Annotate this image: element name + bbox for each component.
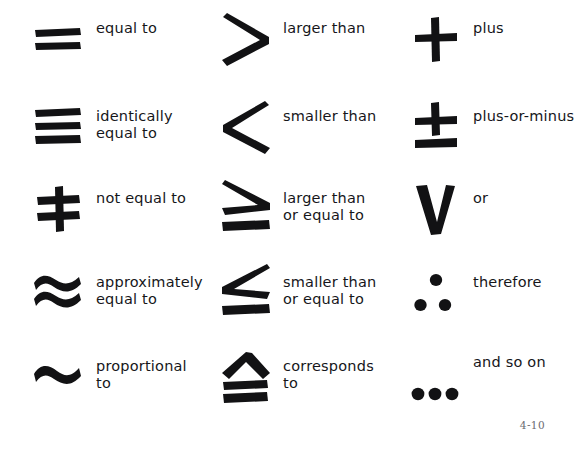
symbol-entry-proportional-to: proportional to	[0, 338, 195, 420]
symbol-entry-greater-than-or-equal: larger than or equal to	[195, 170, 391, 254]
label-line-2: equal to	[96, 291, 203, 308]
label-line-2: or equal to	[283, 291, 376, 308]
page-number: 4-10	[520, 419, 545, 431]
plus-symbol	[405, 14, 467, 66]
label-line-1: therefore	[473, 274, 542, 290]
label-line-1: not equal to	[96, 190, 186, 206]
ellipsis-symbol	[405, 352, 467, 412]
symbol-entry-greater-than: larger than	[195, 0, 391, 88]
greater-than-or-equal-symbol	[213, 184, 279, 236]
label-line-2: to	[283, 375, 374, 392]
symbol-entry-ellipsis: and so on	[391, 338, 577, 420]
label-line-1: proportional	[96, 358, 187, 375]
label-line-1: smaller than	[283, 274, 376, 291]
symbol-label: plus	[473, 20, 504, 37]
label-line-1: smaller than	[283, 108, 376, 124]
symbol-label: or	[473, 190, 488, 207]
not-equal-symbol	[22, 184, 94, 236]
symbol-grid: equal to larger than plus	[0, 0, 577, 420]
label-line-2: equal to	[96, 125, 173, 142]
label-line-1: corresponds	[283, 358, 374, 375]
symbol-entry-less-than-or-equal: smaller than or equal to	[195, 254, 391, 338]
logical-or-symbol	[405, 184, 467, 236]
less-than-or-equal-symbol	[213, 268, 279, 320]
label-line-1: plus-or-minus	[473, 108, 574, 124]
symbol-entry-less-than: smaller than	[195, 88, 391, 170]
symbol-entry-identical-to: identically equal to	[0, 88, 195, 170]
greater-than-symbol	[213, 14, 279, 66]
symbol-label: equal to	[96, 20, 157, 37]
approximately-equal-symbol	[22, 268, 94, 320]
label-line-1: equal to	[96, 20, 157, 36]
symbol-label: larger than	[283, 20, 365, 37]
identical-to-symbol	[22, 102, 94, 154]
symbol-label: smaller than	[283, 108, 376, 125]
symbol-entry-therefore: therefore	[391, 254, 577, 338]
symbol-entry-approximately-equal: approximately equal to	[0, 254, 195, 338]
proportional-to-symbol	[22, 352, 94, 404]
label-line-1: approximately	[96, 274, 203, 291]
symbol-label: not equal to	[96, 190, 186, 207]
label-line-1: identically	[96, 108, 173, 125]
symbol-label: proportional to	[96, 358, 187, 392]
symbol-entry-plus-or-minus: plus-or-minus	[391, 88, 577, 170]
label-line-2: or equal to	[283, 207, 365, 224]
less-than-symbol	[213, 102, 279, 154]
label-line-2: to	[96, 375, 187, 392]
symbol-entry-plus: plus	[391, 0, 577, 88]
corresponds-to-symbol	[213, 352, 279, 404]
symbol-chart-page: equal to larger than plus	[0, 0, 577, 467]
symbol-label: approximately equal to	[96, 274, 203, 308]
symbol-label: smaller than or equal to	[283, 274, 376, 308]
label-line-1: plus	[473, 20, 504, 36]
symbol-label: identically equal to	[96, 108, 173, 142]
symbol-entry-equals: equal to	[0, 0, 195, 88]
symbol-entry-not-equal: not equal to	[0, 170, 195, 254]
equals-symbol	[22, 14, 94, 66]
therefore-symbol	[405, 268, 467, 320]
plus-or-minus-symbol	[405, 102, 467, 154]
label-line-1: and so on	[473, 354, 546, 370]
symbol-label: larger than or equal to	[283, 190, 365, 224]
symbol-label: therefore	[473, 274, 542, 291]
label-line-1: larger than	[283, 190, 365, 207]
label-line-1: or	[473, 190, 488, 206]
label-line-1: larger than	[283, 20, 365, 36]
symbol-entry-corresponds-to: corresponds to	[195, 338, 391, 420]
symbol-entry-logical-or: or	[391, 170, 577, 254]
symbol-label: corresponds to	[283, 358, 374, 392]
symbol-label: plus-or-minus	[473, 108, 574, 125]
symbol-label: and so on	[473, 354, 546, 371]
